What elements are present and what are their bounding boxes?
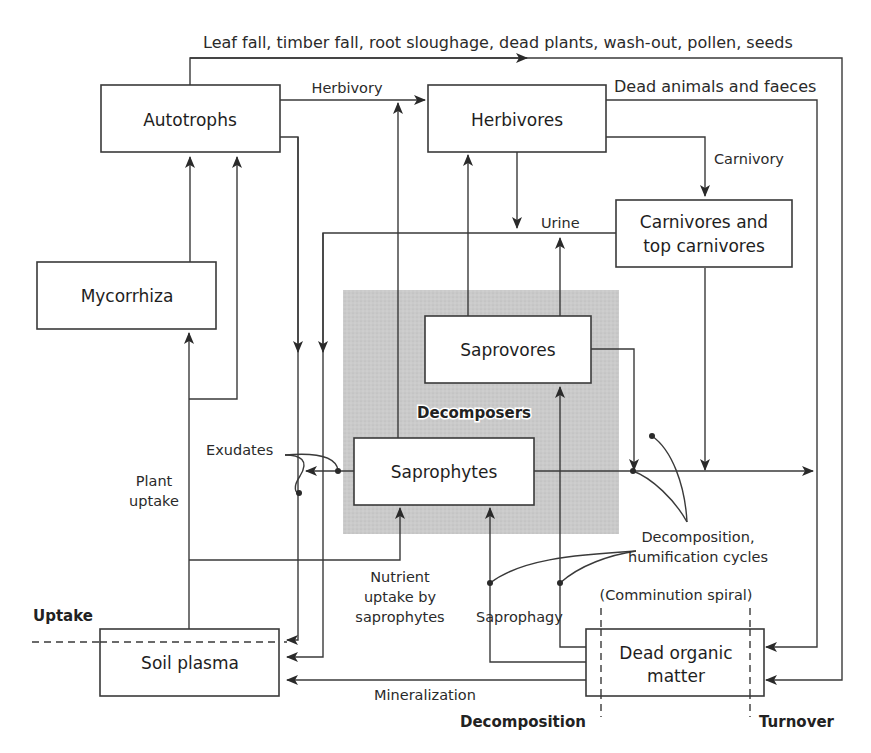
node-carnivores-label-1: Carnivores and xyxy=(640,212,768,232)
node-saprophytes-label: Saprophytes xyxy=(391,462,498,482)
label-leaf-fall: Leaf fall, timber fall, root sloughage, … xyxy=(203,33,793,52)
node-dead-organic-label-1: Dead organic xyxy=(619,643,732,663)
node-mycorrhiza[interactable]: Mycorrhiza xyxy=(37,262,216,329)
node-carnivores-label-2: top carnivores xyxy=(643,236,765,256)
label-decomp-cycles-1: Decomposition, xyxy=(641,529,754,545)
node-herbivores[interactable]: Herbivores xyxy=(428,85,606,152)
label-nutrient-uptake-3: saprophytes xyxy=(355,609,444,625)
node-herbivores-label: Herbivores xyxy=(471,110,563,130)
label-zone-uptake: Uptake xyxy=(33,607,93,625)
label-dead-animals: Dead animals and faeces xyxy=(614,77,816,96)
node-saprophytes[interactable]: Saprophytes xyxy=(354,438,534,505)
label-decomposers: Decomposers xyxy=(417,404,531,422)
node-autotrophs-label: Autotrophs xyxy=(143,110,237,130)
node-soil-plasma[interactable]: Soil plasma xyxy=(100,629,279,696)
node-soil-plasma-label: Soil plasma xyxy=(141,653,239,673)
node-dead-organic-matter[interactable]: Dead organic matter xyxy=(586,629,764,696)
label-comminution: (Comminution spiral) xyxy=(599,587,752,603)
label-nutrient-uptake-2: uptake by xyxy=(364,589,437,605)
node-carnivores[interactable]: Carnivores and top carnivores xyxy=(616,200,792,267)
node-saprovores-label: Saprovores xyxy=(460,340,556,360)
node-saprovores[interactable]: Saprovores xyxy=(425,316,591,383)
label-zone-decomposition: Decomposition xyxy=(460,713,586,731)
label-nutrient-uptake-1: Nutrient xyxy=(370,569,430,585)
node-mycorrhiza-label: Mycorrhiza xyxy=(81,286,174,306)
label-decomp-cycles-2: humification cycles xyxy=(628,549,768,565)
label-herbivory: Herbivory xyxy=(311,80,382,96)
node-dead-organic-label-2: matter xyxy=(647,666,705,686)
label-zone-turnover: Turnover xyxy=(759,713,835,731)
label-urine: Urine xyxy=(541,215,580,231)
nutrient-cycle-diagram: Autotrophs Herbivores Carnivores and top… xyxy=(0,0,871,753)
label-exudates: Exudates xyxy=(206,442,273,458)
label-carnivory: Carnivory xyxy=(714,151,784,167)
label-mineralization: Mineralization xyxy=(374,687,476,703)
label-plant-uptake-2: uptake xyxy=(129,493,179,509)
label-saprophagy: Saprophagy xyxy=(476,609,563,625)
node-autotrophs[interactable]: Autotrophs xyxy=(101,85,280,152)
label-plant-uptake-1: Plant xyxy=(136,473,173,489)
